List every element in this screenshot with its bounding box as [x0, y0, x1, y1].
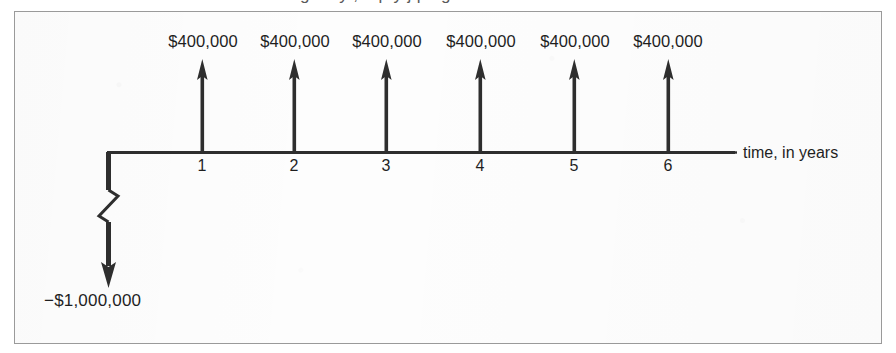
- inflow-arrow-3: [381, 59, 392, 153]
- period-label-6: 6: [664, 157, 673, 175]
- scale-break-zigzag: [99, 190, 118, 222]
- inflow-amount-label-5: $400,000: [540, 32, 610, 51]
- inflow-amount-label-2: $400,000: [260, 32, 330, 51]
- inflow-amount-label-4: $400,000: [446, 32, 516, 51]
- outflow-arrow: [99, 152, 118, 288]
- inflow-arrow-group: [197, 59, 674, 153]
- period-label-4: 4: [476, 157, 485, 175]
- period-label-1: 1: [198, 157, 207, 175]
- inflow-arrow-5: [569, 59, 580, 153]
- inflow-arrow-1: [197, 59, 208, 153]
- inflow-amount-label-6: $400,000: [633, 32, 703, 51]
- inflow-arrow-4: [475, 59, 486, 153]
- inflow-amount-label-3: $400,000: [352, 32, 422, 51]
- period-label-3: 3: [382, 157, 391, 175]
- inflow-amount-label-1: $400,000: [168, 32, 238, 51]
- time-axis-caption: time, in years: [743, 144, 838, 162]
- inflow-arrow-2: [289, 59, 300, 153]
- outflow-amount-label: −$1,000,000: [44, 291, 141, 311]
- inflow-arrow-6: [663, 59, 674, 153]
- period-label-2: 2: [290, 157, 299, 175]
- period-label-5: 5: [570, 157, 579, 175]
